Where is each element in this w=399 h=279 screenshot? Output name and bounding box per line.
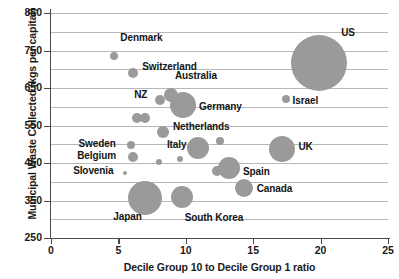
point-label-nz: NZ xyxy=(134,89,147,100)
bubble-nz[interactable] xyxy=(155,95,165,105)
point-label-spain: Spain xyxy=(243,166,270,177)
bubble-point[interactable] xyxy=(140,113,150,123)
bubble-belgium[interactable] xyxy=(128,152,138,162)
x-axis-line xyxy=(44,238,390,239)
bubble-netherlands[interactable] xyxy=(157,126,169,138)
bubble-israel[interactable] xyxy=(282,95,290,103)
y-axis-tick-label: 350 xyxy=(0,194,42,206)
point-label-canada: Canada xyxy=(257,183,293,194)
y-axis-tick xyxy=(44,126,51,127)
bubble-slovenia[interactable] xyxy=(123,171,127,175)
point-label-japan: Japan xyxy=(113,211,141,222)
bubble-japan[interactable] xyxy=(128,181,162,215)
x-axis-tick-label: 20 xyxy=(306,244,336,256)
bubble-south-korea[interactable] xyxy=(171,186,193,208)
point-label-slovenia: Slovenia xyxy=(73,165,113,176)
point-label-israel: Israel xyxy=(293,95,319,106)
point-label-sweden: Sweden xyxy=(79,138,116,149)
bubble-spain[interactable] xyxy=(218,157,240,179)
y-axis-tick xyxy=(44,51,51,52)
bubble-switzerland[interactable] xyxy=(128,68,138,78)
bubble-denmark[interactable] xyxy=(110,52,118,60)
y-axis-tick xyxy=(44,13,51,14)
y-axis-tick xyxy=(44,88,51,89)
point-label-denmark: Denmark xyxy=(120,32,162,43)
bubble-us[interactable] xyxy=(291,35,347,91)
bubble-italy[interactable] xyxy=(187,137,209,159)
y-axis-tick xyxy=(44,238,51,239)
point-label-netherlands: Netherlands xyxy=(173,121,230,132)
y-axis-tick xyxy=(44,201,51,202)
x-axis-title: Decile Group 10 to Decile Group 1 ratio xyxy=(51,261,388,273)
y-axis-title: Municipal Waste Collected (kgs per capit… xyxy=(26,4,38,224)
bubble-point[interactable] xyxy=(177,156,183,162)
point-label-germany: Germany xyxy=(199,101,242,112)
point-label-belgium: Belgium xyxy=(77,150,116,161)
point-label-australia: Australia xyxy=(175,70,217,81)
y-axis-tick-label: 750 xyxy=(0,44,42,56)
y-axis-tick-label: 650 xyxy=(0,81,42,93)
y-axis-tick-label: 850 xyxy=(0,6,42,18)
x-axis-tick-label: 25 xyxy=(373,244,399,256)
bubble-uk[interactable] xyxy=(269,136,295,162)
bubble-germany[interactable] xyxy=(170,92,196,118)
point-label-italy: Italy xyxy=(167,139,187,150)
x-axis-tick-label: 5 xyxy=(103,244,133,256)
y-axis-tick-label: 250 xyxy=(0,231,42,243)
y-axis-tick-label: 450 xyxy=(0,156,42,168)
x-axis-tick-label: 10 xyxy=(171,244,201,256)
y-axis-tick-label: 550 xyxy=(0,119,42,131)
point-label-us: US xyxy=(341,27,355,38)
bubble-point[interactable] xyxy=(216,137,224,145)
bubble-point[interactable] xyxy=(156,159,162,165)
x-axis-tick-label: 0 xyxy=(36,244,66,256)
bubble-canada[interactable] xyxy=(235,179,253,197)
x-axis-tick-label: 15 xyxy=(238,244,268,256)
bubble-sweden[interactable] xyxy=(127,141,135,149)
y-axis-tick xyxy=(44,163,51,164)
point-label-uk: UK xyxy=(299,141,313,152)
point-label-south-korea: South Korea xyxy=(185,212,243,223)
